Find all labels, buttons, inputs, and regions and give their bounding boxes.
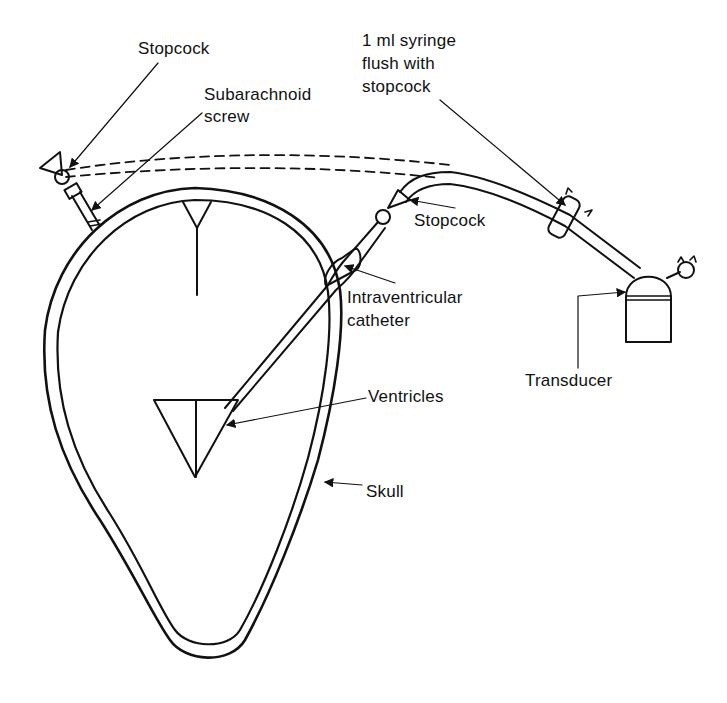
leader-transducer [578,292,625,368]
diagram-drawing [0,0,727,703]
dashed-line-upper [66,155,450,170]
syringe-flush-clamp [546,194,582,240]
stopcock-mid-shape [388,190,410,208]
label-syringe-line3: stopcock [362,76,431,98]
leader-syringe [440,100,565,205]
leader-stopcock-top [70,63,158,167]
transducer-shape [626,277,671,342]
leader-ventricles [227,398,366,425]
label-catheter-line2: catheter [347,310,410,332]
leader-subarachnoid [92,113,202,210]
label-stopcock-mid: Stopcock [414,210,486,232]
diagram-canvas: Stopcock Subarachnoid screw 1 ml syringe… [0,0,727,703]
leader-skull [325,482,362,485]
label-subarachnoid-line2: screw [204,106,249,128]
label-syringe-line2: flush with [362,53,435,75]
label-transducer: Transducer [525,370,612,392]
label-catheter-line1: Intraventricular [347,287,463,309]
skull-inner [57,200,329,644]
falx [183,202,211,228]
label-ventricles: Ventricles [368,386,444,408]
label-stopcock-top: Stopcock [138,38,210,60]
leader-stopcock-mid [410,200,455,208]
label-skull: Skull [366,481,404,503]
label-subarachnoid-line1: Subarachnoid [204,84,311,106]
dashed-line-lower [66,168,440,178]
label-syringe-line1: 1 ml syringe [362,30,456,52]
